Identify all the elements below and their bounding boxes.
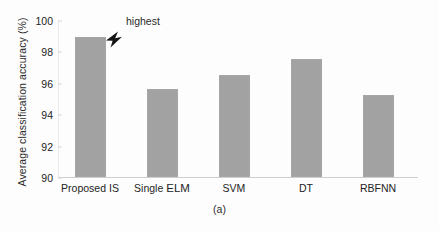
x-axis-tick-label: RBFNN xyxy=(360,182,396,194)
arrow-icon xyxy=(105,30,129,50)
y-axis-tick-label: 92 xyxy=(41,141,53,153)
bar-proposed-is[interactable] xyxy=(75,37,106,177)
annotation-label-highest: highest xyxy=(126,15,160,27)
y-axis-tick-mark xyxy=(58,21,62,22)
x-axis-tick-label: DT xyxy=(299,182,313,194)
y-axis-title: Average classification accuracy (%) xyxy=(16,12,28,192)
figure-caption: (a) xyxy=(0,203,439,215)
bar-single-elm[interactable] xyxy=(147,89,178,177)
y-axis-tick-label: 100 xyxy=(35,15,53,27)
bar-dt[interactable] xyxy=(291,59,322,177)
y-axis-tick-mark xyxy=(58,178,62,179)
y-axis-tick-mark xyxy=(58,83,62,84)
x-axis-tick-label: Proposed IS xyxy=(61,182,119,194)
bar-svm[interactable] xyxy=(219,75,250,177)
x-label-part: Single xyxy=(134,182,163,194)
x-axis-tick-label: Single ELM xyxy=(134,182,190,194)
y-axis-tick-label: 98 xyxy=(41,46,53,58)
y-axis-line xyxy=(58,21,59,178)
y-axis-tick-mark xyxy=(58,115,62,116)
x-axis-line xyxy=(58,177,418,178)
y-axis-tick-label: 94 xyxy=(41,109,53,121)
figure-container: Average classification accuracy (%) 9092… xyxy=(0,0,439,231)
x-label-part: ELM xyxy=(166,182,190,194)
x-axis-tick-label: SVM xyxy=(223,182,246,194)
y-axis-tick-label: 90 xyxy=(41,172,53,184)
y-axis-tick-mark xyxy=(58,146,62,147)
y-axis-tick-label: 96 xyxy=(41,78,53,90)
y-axis-tick-mark xyxy=(58,52,62,53)
bar-rbfnn[interactable] xyxy=(363,95,394,177)
